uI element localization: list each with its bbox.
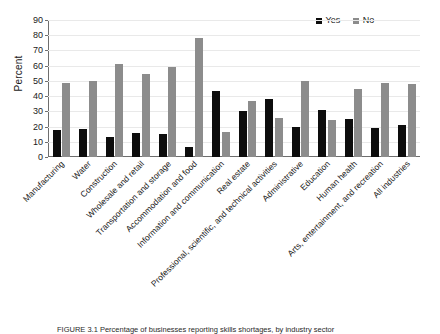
bar-no[interactable] — [408, 84, 416, 157]
bar-group — [367, 20, 394, 157]
y-axis-title: Percent — [13, 39, 24, 109]
bar-group — [340, 20, 367, 157]
bar-group — [234, 20, 261, 157]
bar-no[interactable] — [142, 74, 150, 157]
bar-group — [314, 20, 341, 157]
y-tick-label: 70 — [33, 46, 43, 55]
bar-no[interactable] — [301, 81, 309, 157]
y-tick-label: 30 — [33, 107, 43, 116]
bar-no[interactable] — [115, 64, 123, 157]
bar-yes[interactable] — [398, 125, 406, 157]
y-tick-label: 50 — [33, 76, 43, 85]
x-axis-label: Manufacturing — [22, 158, 68, 204]
bar-no[interactable] — [168, 67, 176, 157]
bar-yes[interactable] — [53, 130, 61, 157]
bar-group — [128, 20, 155, 157]
bar-no[interactable] — [248, 101, 256, 157]
y-tick-label: 60 — [33, 61, 43, 70]
bar-group — [75, 20, 102, 157]
bar-yes[interactable] — [185, 147, 193, 157]
y-tick-label: 20 — [33, 122, 43, 131]
bar-yes[interactable] — [318, 110, 326, 157]
figure-container: Yes No Percent 0102030405060708090 Manuf… — [0, 0, 440, 334]
bar-yes[interactable] — [345, 119, 353, 157]
bar-yes[interactable] — [159, 134, 167, 157]
bar-group — [261, 20, 288, 157]
y-tick-label: 40 — [33, 92, 43, 101]
x-axis-label: Professional, scientific, and technical … — [149, 158, 280, 289]
bar-group — [181, 20, 208, 157]
y-tick-label: 80 — [33, 31, 43, 40]
bar-group — [394, 20, 421, 157]
bar-yes[interactable] — [132, 133, 140, 157]
bar-group — [207, 20, 234, 157]
plot-area: 0102030405060708090 — [48, 20, 420, 157]
bar-no[interactable] — [275, 118, 283, 157]
figure-caption: FIGURE 3.1 Percentage of businesses repo… — [57, 325, 387, 334]
bar-group — [48, 20, 75, 157]
bar-groups — [48, 20, 420, 157]
bar-group — [101, 20, 128, 157]
bar-no[interactable] — [381, 83, 389, 157]
bar-group — [154, 20, 181, 157]
bar-yes[interactable] — [79, 129, 87, 157]
bar-no[interactable] — [354, 89, 362, 157]
y-tick-label: 0 — [38, 153, 43, 162]
bar-group — [287, 20, 314, 157]
bar-yes[interactable] — [265, 99, 273, 157]
bar-no[interactable] — [195, 38, 203, 157]
bar-no[interactable] — [89, 81, 97, 157]
bar-no[interactable] — [328, 120, 336, 157]
bar-yes[interactable] — [106, 137, 114, 157]
bar-no[interactable] — [62, 83, 70, 157]
bar-yes[interactable] — [239, 111, 247, 157]
bar-yes[interactable] — [292, 127, 300, 157]
bar-no[interactable] — [222, 132, 230, 157]
bar-yes[interactable] — [212, 91, 220, 157]
y-tick-label: 10 — [33, 137, 43, 146]
y-tick-label: 90 — [33, 16, 43, 25]
bar-yes[interactable] — [371, 128, 379, 157]
y-tick-mark — [45, 157, 48, 158]
